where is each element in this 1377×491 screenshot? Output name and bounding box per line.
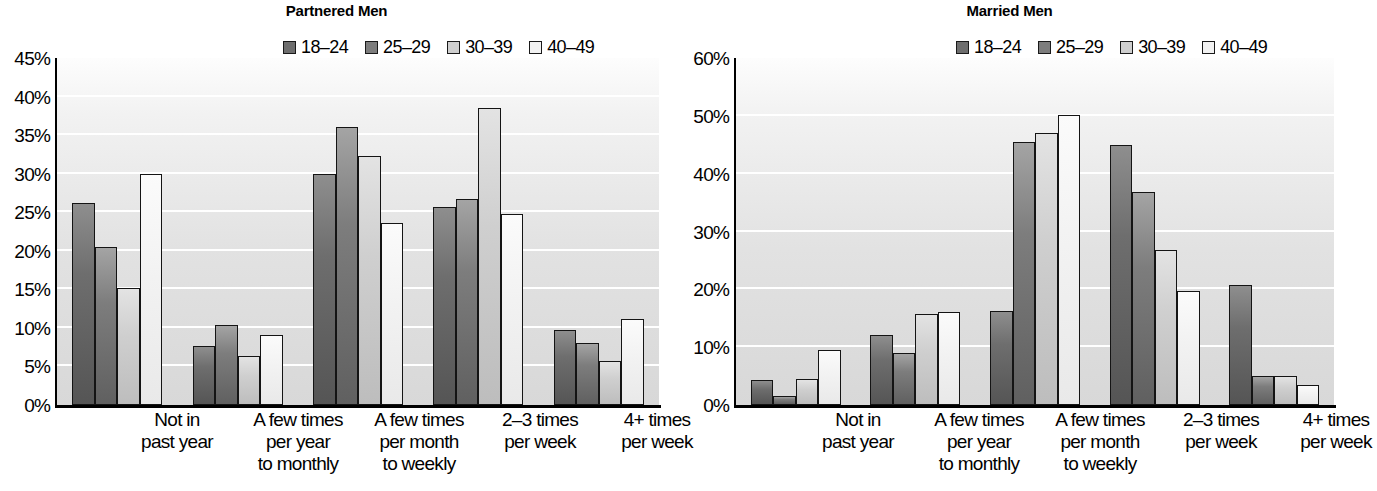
bar xyxy=(773,396,796,405)
x-axis-category-line: 2–3 times xyxy=(1156,409,1286,431)
x-axis-category-line: Not in xyxy=(112,409,242,431)
x-axis-category-line: A few times xyxy=(1030,409,1170,431)
bar xyxy=(576,343,599,405)
x-axis-line xyxy=(55,405,661,408)
bar xyxy=(1132,192,1155,405)
legend-swatch-icon xyxy=(1202,41,1215,54)
bars-layer-married-men xyxy=(736,58,1334,405)
bar xyxy=(260,335,283,405)
x-axis-category-line: per year xyxy=(228,431,368,453)
bar xyxy=(433,207,456,405)
x-axis-category-line: per year xyxy=(909,431,1049,453)
bar xyxy=(215,325,238,405)
bar xyxy=(915,314,938,405)
y-axis-tick-label: 35% xyxy=(14,126,50,145)
x-axis-category-label: 2–3 timesper week xyxy=(475,409,605,453)
legend-item-40-49: 40–49 xyxy=(529,38,594,56)
bar xyxy=(1252,376,1275,405)
legend-item-40-49: 40–49 xyxy=(1202,38,1267,56)
y-axis-tick-label: 30% xyxy=(693,222,729,241)
x-axis-category-line: per month xyxy=(349,431,489,453)
x-axis-category-line: past year xyxy=(793,431,923,453)
bar xyxy=(117,288,140,405)
legend-swatch-icon xyxy=(1038,41,1051,54)
bar xyxy=(336,127,359,405)
bar xyxy=(238,356,261,405)
x-axis-category-line: per week xyxy=(1156,431,1286,453)
bar xyxy=(1274,376,1297,405)
legend-item-18-24: 18–24 xyxy=(956,38,1021,56)
legend-label: 30–39 xyxy=(1138,38,1185,56)
y-axis-tick-label: 45% xyxy=(14,49,50,68)
y-axis-tick-label: 10% xyxy=(693,338,729,357)
x-axis-category-line: A few times xyxy=(228,409,368,431)
legend-item-30-39: 30–39 xyxy=(1120,38,1185,56)
legend-label: 18–24 xyxy=(974,38,1021,56)
legend-swatch-icon xyxy=(529,41,542,54)
x-axis-category-label: A few timesper monthto weekly xyxy=(349,409,489,475)
legend-label: 40–49 xyxy=(547,38,594,56)
bar xyxy=(621,319,644,405)
x-axis-category-label: 2–3 timesper week xyxy=(1156,409,1286,453)
y-axis-tick-label: 5% xyxy=(24,357,50,376)
y-axis-tick-label: 15% xyxy=(14,280,50,299)
bar xyxy=(870,335,893,405)
plot-area-partnered-men xyxy=(57,58,659,405)
bar xyxy=(1058,115,1081,405)
bar xyxy=(72,203,95,405)
bar xyxy=(1229,285,1252,405)
bar xyxy=(1177,291,1200,406)
bar xyxy=(1035,133,1058,405)
x-axis-category-label: A few timesper monthto weekly xyxy=(1030,409,1170,475)
legend-label: 25–29 xyxy=(1056,38,1103,56)
legend-partnered-men: 18–2425–2930–3940–49 xyxy=(283,38,594,56)
legend-swatch-icon xyxy=(956,41,969,54)
x-axis-category-label: A few timesper yearto monthly xyxy=(909,409,1049,475)
y-axis-line xyxy=(734,58,736,408)
x-axis-category-line: per week xyxy=(1271,431,1377,453)
x-axis-category-label: 4+ timesper week xyxy=(1271,409,1377,453)
x-axis-category-line: A few times xyxy=(349,409,489,431)
legend-label: 25–29 xyxy=(383,38,430,56)
legend-item-18-24: 18–24 xyxy=(283,38,348,56)
plot-background-partnered-men xyxy=(57,58,659,405)
bar xyxy=(1013,142,1036,405)
legend-swatch-icon xyxy=(365,41,378,54)
y-axis-tick-label: 30% xyxy=(14,164,50,183)
x-axis-category-line: to monthly xyxy=(909,453,1049,475)
y-axis-tick-label: 40% xyxy=(693,164,729,183)
plot-area-married-men xyxy=(736,58,1334,405)
bar xyxy=(990,311,1013,405)
bar xyxy=(381,223,404,405)
y-axis-tick-label: 50% xyxy=(693,106,729,125)
legend-swatch-icon xyxy=(1120,41,1133,54)
bar xyxy=(501,214,524,405)
chart-panel-partnered-men: Partnered Men 18–2425–2930–3940–49 45%40… xyxy=(0,0,673,491)
x-axis-category-label: A few timesper yearto monthly xyxy=(228,409,368,475)
x-axis-category-line: Not in xyxy=(793,409,923,431)
bar xyxy=(478,108,501,405)
x-axis-category-line: 4+ times xyxy=(1271,409,1377,431)
x-axis-category-label: Not inpast year xyxy=(112,409,242,453)
chart-title-partnered-men: Partnered Men xyxy=(0,2,673,19)
y-axis-line xyxy=(55,58,57,408)
legend-item-25-29: 25–29 xyxy=(1038,38,1103,56)
bar xyxy=(1155,250,1178,405)
legend-label: 40–49 xyxy=(1220,38,1267,56)
bar xyxy=(193,346,216,405)
x-axis-category-line: per month xyxy=(1030,431,1170,453)
bar xyxy=(358,156,381,405)
x-axis-labels-partnered-men: Not inpast yearA few timesper yearto mon… xyxy=(0,409,673,489)
plot-background-married-men xyxy=(736,58,1334,405)
bar xyxy=(1110,145,1133,405)
bar xyxy=(751,380,774,405)
legend-swatch-icon xyxy=(283,41,296,54)
x-axis-category-line: to weekly xyxy=(1030,453,1170,475)
y-axis-tick-label: 60% xyxy=(693,49,729,68)
bar xyxy=(95,247,118,405)
chart-title-married-men: Married Men xyxy=(673,2,1346,19)
bar xyxy=(456,199,479,405)
x-axis-category-line: to weekly xyxy=(349,453,489,475)
y-axis-tick-label: 20% xyxy=(14,241,50,260)
y-axis-tick-label: 40% xyxy=(14,87,50,106)
